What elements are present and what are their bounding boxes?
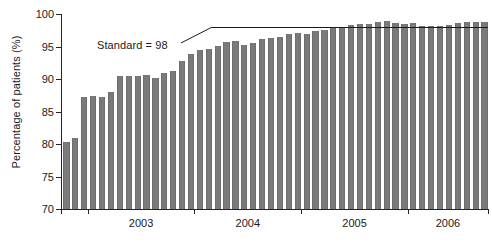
bar	[179, 61, 185, 209]
y-tick-label: 95	[42, 41, 54, 53]
bar	[437, 26, 443, 209]
bar	[348, 25, 354, 209]
x-tick-mark	[408, 210, 409, 214]
y-tick-mark	[56, 112, 61, 113]
bar	[357, 24, 363, 209]
x-tick-mark	[488, 210, 489, 214]
x-tick-mark	[88, 210, 89, 214]
y-tick-mark	[56, 47, 61, 48]
y-tick-label: 70	[42, 203, 54, 215]
bar	[152, 78, 158, 209]
x-tick-label-2003: 2003	[129, 217, 153, 229]
bar	[126, 76, 132, 209]
bar	[135, 76, 141, 209]
bar	[330, 28, 336, 209]
y-tick-label: 85	[42, 106, 54, 118]
y-tick-label: 75	[42, 171, 54, 183]
bar	[197, 50, 203, 209]
standard-label: Standard = 98	[97, 39, 168, 51]
y-tick-label: 100	[36, 8, 54, 20]
bar	[384, 21, 390, 209]
bar	[81, 97, 87, 209]
bar	[304, 34, 310, 210]
bar	[428, 26, 434, 209]
x-tick-label-2004: 2004	[236, 217, 260, 229]
bar	[321, 30, 327, 209]
y-axis-title: Percentage of patients (%)	[10, 2, 22, 202]
bar	[63, 142, 69, 209]
bar	[99, 97, 105, 209]
bar	[241, 45, 247, 209]
bar	[259, 39, 265, 209]
bar	[295, 33, 301, 209]
x-tick-label-2006: 2006	[436, 217, 460, 229]
standard-reference-line	[212, 27, 488, 28]
bar	[232, 41, 238, 209]
bar	[410, 23, 416, 209]
bar	[223, 42, 229, 209]
x-tick-mark	[61, 210, 62, 214]
bar	[339, 27, 345, 209]
plot-area: 707580859095100 2003200420052006 Standar…	[61, 14, 489, 210]
bar	[366, 24, 372, 209]
bar	[108, 92, 114, 209]
bar	[277, 37, 283, 209]
y-tick-mark	[56, 144, 61, 145]
bar	[286, 34, 292, 209]
standard-leader-line	[181, 27, 212, 45]
bar	[455, 23, 461, 209]
bar	[392, 23, 398, 209]
bar	[375, 22, 381, 209]
y-tick-mark	[56, 79, 61, 80]
x-tick-mark	[194, 210, 195, 214]
bar	[312, 31, 318, 209]
y-tick-label: 80	[42, 138, 54, 150]
bar	[161, 73, 167, 209]
bar	[143, 75, 149, 209]
y-tick-mark	[56, 14, 61, 15]
x-axis-line	[61, 209, 489, 210]
bar	[215, 46, 221, 209]
bar	[446, 25, 452, 209]
bar-chart: Percentage of patients (%) 7075808590951…	[0, 0, 492, 248]
bar	[268, 38, 274, 209]
bar	[464, 22, 470, 209]
bar	[72, 138, 78, 210]
bar	[481, 22, 487, 209]
bar	[188, 54, 194, 209]
bar	[401, 24, 407, 209]
y-tick-label: 90	[42, 73, 54, 85]
x-tick-mark	[301, 210, 302, 214]
bar	[206, 49, 212, 209]
bar	[90, 96, 96, 209]
x-tick-label-2005: 2005	[342, 217, 366, 229]
bar	[473, 22, 479, 209]
bar	[117, 76, 123, 209]
y-tick-mark	[56, 177, 61, 178]
bar	[419, 26, 425, 209]
bar	[250, 43, 256, 209]
bar	[170, 71, 176, 209]
